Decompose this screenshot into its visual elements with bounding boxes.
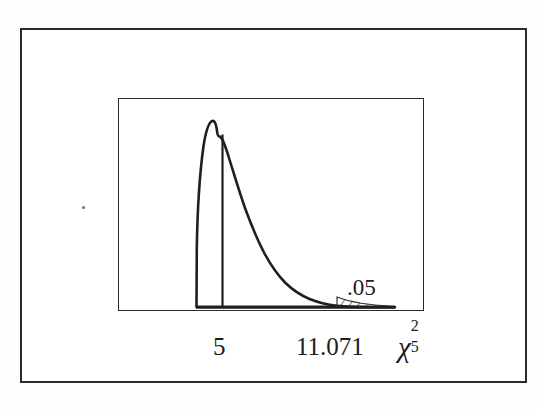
x-axis-chi-square-symbol: χ25 xyxy=(398,330,422,362)
x-tick-label-mode: 5 xyxy=(213,334,226,359)
chi-subscript: 5 xyxy=(411,339,419,355)
figure-root: .05 5 11.071 χ25 xyxy=(0,0,542,409)
tail-area-label: .05 xyxy=(347,276,376,299)
axis-label-layer: .05 5 11.071 χ25 xyxy=(0,0,542,409)
x-tick-label-critical-value: 11.071 xyxy=(296,334,364,359)
chi-superscript: 2 xyxy=(411,318,419,334)
chi-symbol-indices: 25 xyxy=(411,330,422,357)
chi-glyph: χ xyxy=(398,331,411,363)
